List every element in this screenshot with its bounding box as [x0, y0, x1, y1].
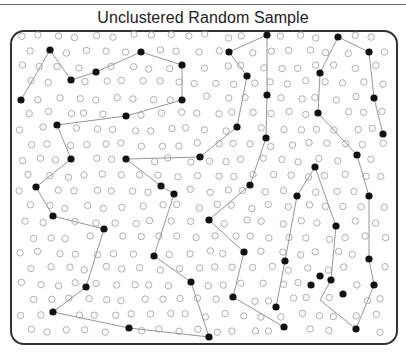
- population-dot: [100, 205, 106, 211]
- population-dot: [22, 218, 28, 224]
- population-dot: [378, 173, 384, 179]
- population-dot: [71, 188, 77, 194]
- population-dot: [44, 141, 50, 147]
- sampled-dot: [125, 324, 132, 331]
- population-dot: [17, 312, 23, 318]
- population-dot: [226, 95, 232, 101]
- population-dot: [373, 220, 379, 226]
- population-dot: [112, 220, 118, 226]
- population-dot: [45, 108, 51, 114]
- population-dot: [345, 109, 351, 115]
- sample-path: [126, 35, 267, 337]
- population-dot: [17, 250, 23, 256]
- population-dot: [104, 78, 110, 84]
- population-dot: [110, 251, 116, 257]
- population-dot: [80, 110, 86, 116]
- population-dot: [312, 94, 318, 100]
- population-dot: [260, 280, 266, 286]
- population-dot: [138, 233, 144, 239]
- population-dot: [165, 283, 171, 289]
- population-dot: [229, 109, 235, 115]
- population-dot: [212, 233, 218, 239]
- population-dot: [305, 265, 311, 271]
- population-dot: [156, 233, 162, 239]
- population-dot: [34, 248, 40, 254]
- sampled-dot: [316, 272, 323, 279]
- population-dot: [168, 218, 174, 224]
- population-dot: [55, 33, 61, 39]
- population-dot: [238, 33, 244, 39]
- population-dot: [37, 155, 43, 161]
- population-dot: [280, 221, 286, 227]
- population-dot: [258, 248, 264, 254]
- population-dot: [19, 62, 25, 68]
- population-dot: [83, 47, 89, 53]
- population-dot: [176, 265, 182, 271]
- population-dot: [360, 109, 366, 115]
- population-dot: [223, 128, 229, 134]
- population-dot: [362, 233, 368, 239]
- population-dot: [354, 282, 360, 288]
- sampled-dot: [370, 94, 377, 101]
- population-dot: [330, 313, 336, 319]
- population-dot: [314, 220, 320, 226]
- population-dot: [174, 201, 180, 207]
- sample-path: [21, 50, 209, 337]
- population-dot: [93, 97, 99, 103]
- population-dot: [104, 297, 110, 303]
- population-dot: [196, 49, 202, 55]
- sampled-dot: [243, 72, 250, 79]
- population-dot: [103, 141, 109, 147]
- population-dot: [94, 251, 100, 257]
- population-dot: [187, 218, 193, 224]
- sampled-dot: [205, 216, 212, 223]
- population-dot: [118, 140, 124, 146]
- population-dot: [225, 35, 231, 41]
- population-dot: [173, 48, 179, 54]
- population-dot: [62, 205, 68, 211]
- population-dot: [99, 171, 105, 177]
- population-dot: [334, 188, 340, 194]
- population-dot: [168, 31, 174, 37]
- population-dot: [268, 110, 274, 116]
- population-dot: [298, 127, 304, 133]
- population-dot: [303, 111, 309, 117]
- population-dot: [382, 264, 388, 270]
- population-dot: [113, 312, 119, 318]
- population-dot: [216, 48, 222, 54]
- population-dot: [38, 312, 44, 318]
- population-dot: [313, 35, 319, 41]
- population-dot: [132, 282, 138, 288]
- population-dot: [340, 203, 346, 209]
- population-dot: [187, 251, 193, 257]
- population-dot: [30, 235, 36, 241]
- population-dot: [322, 79, 328, 85]
- population-dot: [313, 189, 319, 195]
- population-dot: [122, 49, 128, 55]
- sample-path: [318, 37, 374, 329]
- sampled-dots: [17, 31, 386, 340]
- sampled-dot: [82, 283, 89, 290]
- sampled-dot: [246, 181, 253, 188]
- population-dot: [81, 267, 87, 273]
- population-dot: [146, 282, 152, 288]
- sampled-dot: [379, 130, 386, 137]
- population-dot: [157, 267, 163, 273]
- sampled-dot: [370, 281, 377, 288]
- population-dot: [25, 171, 31, 177]
- population-dot: [206, 158, 212, 164]
- population-dot: [216, 173, 222, 179]
- population-dot: [352, 32, 358, 38]
- population-dot: [333, 97, 339, 103]
- population-dot: [67, 264, 73, 270]
- population-dot: [145, 189, 151, 195]
- population-dot: [100, 111, 106, 117]
- population-dot: [271, 171, 277, 177]
- population-dot: [325, 267, 331, 273]
- population-dot: [28, 326, 34, 332]
- population-dot: [48, 235, 54, 241]
- population-dot: [265, 328, 271, 334]
- population-dot: [202, 31, 208, 37]
- population-dot: [280, 187, 286, 193]
- population-dot: [71, 34, 77, 40]
